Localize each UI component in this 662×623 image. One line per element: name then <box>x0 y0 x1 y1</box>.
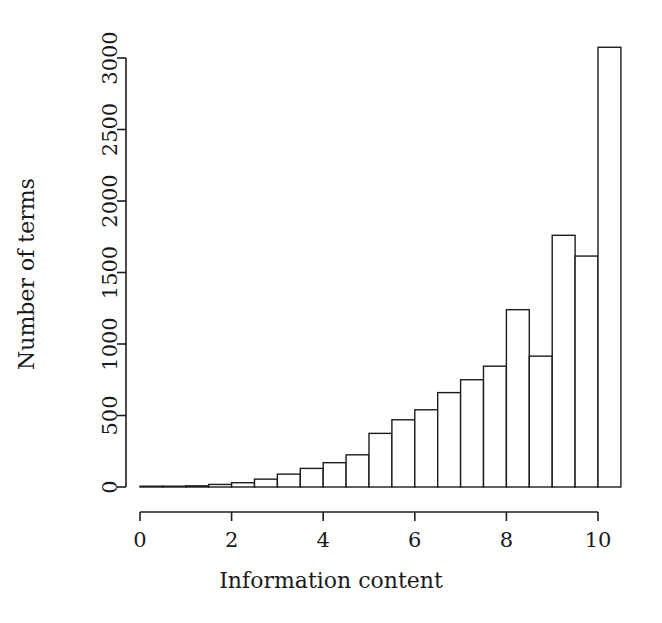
bars-group <box>140 47 621 487</box>
y-axis-title: Number of terms <box>14 178 39 370</box>
histogram-bar <box>415 410 438 487</box>
histogram-bar <box>255 479 278 487</box>
histogram-bar <box>186 486 209 487</box>
histogram-bar <box>552 235 575 487</box>
histogram-bar <box>209 484 232 487</box>
x-axis <box>140 512 598 521</box>
histogram-bar <box>277 474 300 487</box>
y-axis-tick-labels: 050010001500200025003000 <box>98 31 122 493</box>
histogram-bar <box>323 463 346 487</box>
histogram-bar <box>300 468 323 487</box>
histogram-bar <box>232 483 255 487</box>
y-axis-tick-label: 500 <box>98 395 122 435</box>
histogram-bar <box>392 420 415 487</box>
x-axis-tick-label: 8 <box>500 528 513 552</box>
histogram-bar <box>575 256 598 487</box>
x-axis-title: Information content <box>219 568 443 593</box>
y-axis-tick-label: 1000 <box>98 317 122 370</box>
histogram-bar <box>529 356 552 487</box>
histogram-bar <box>346 455 369 487</box>
x-axis-tick-label: 6 <box>408 528 421 552</box>
histogram-bar <box>461 380 484 487</box>
histogram-bar <box>484 366 507 487</box>
x-axis-tick-label: 2 <box>225 528 238 552</box>
histogram-figure: 0246810 050010001500200025003000 Informa… <box>0 0 662 623</box>
y-axis-tick-label: 2000 <box>98 174 122 227</box>
histogram-bar <box>369 433 392 487</box>
y-axis-tick-label: 2500 <box>98 103 122 156</box>
x-axis-tick-label: 0 <box>133 528 146 552</box>
histogram-bar <box>598 47 621 487</box>
y-axis-tick-label: 3000 <box>98 31 122 84</box>
chart-canvas: 0246810 050010001500200025003000 Informa… <box>0 0 662 623</box>
histogram-bar <box>506 310 529 487</box>
y-axis-tick-label: 0 <box>98 480 122 493</box>
histogram-bar <box>163 486 186 487</box>
histogram-bar <box>140 486 163 487</box>
x-axis-tick-label: 10 <box>585 528 612 552</box>
x-axis-tick-labels: 0246810 <box>133 528 611 552</box>
x-axis-tick-label: 4 <box>317 528 330 552</box>
histogram-bar <box>438 393 461 487</box>
y-axis-tick-label: 1500 <box>98 246 122 299</box>
